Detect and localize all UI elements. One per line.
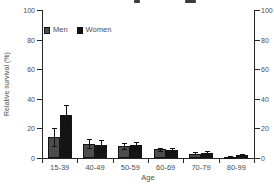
error-bar-cap xyxy=(170,148,175,149)
x-tick-label: 15-39 xyxy=(43,163,77,172)
error-bar-cap xyxy=(228,157,233,158)
survival-bar-chart: Relative survival (%) Men Women 02040608… xyxy=(0,0,274,191)
error-bar-cap xyxy=(240,156,245,157)
error-bar-cap xyxy=(99,150,104,151)
y-tick-label-right: 40 xyxy=(261,95,274,104)
legend-item-men: Men xyxy=(44,26,68,34)
y-tick-label-right: 0 xyxy=(261,154,274,163)
x-tick xyxy=(254,159,255,163)
men-swatch-icon xyxy=(44,27,50,34)
y-tick-right xyxy=(255,69,260,70)
y-tick-right xyxy=(255,40,260,41)
error-bar-cap xyxy=(87,148,92,149)
y-tick-label-left: 60 xyxy=(6,65,35,74)
error-bar-cap xyxy=(170,151,175,152)
right-y-axis-line xyxy=(254,10,255,159)
error-bar xyxy=(66,105,67,126)
error-bar-cap xyxy=(64,105,69,106)
y-tick-label-right: 60 xyxy=(261,65,274,74)
error-bar xyxy=(54,128,55,146)
x-axis-label: Age xyxy=(128,173,168,182)
y-tick-left xyxy=(37,10,42,11)
error-bar-cap xyxy=(52,128,57,129)
error-bar-cap xyxy=(52,146,57,147)
y-tick-right xyxy=(255,128,260,129)
error-bar-cap xyxy=(134,142,139,143)
error-bar xyxy=(101,140,102,150)
y-tick-label-left: 0 xyxy=(6,154,35,163)
y-tick-right xyxy=(255,10,260,11)
legend: Men Women xyxy=(44,26,111,34)
error-bar-cap xyxy=(158,148,163,149)
error-bar xyxy=(89,139,90,148)
error-bar-cap xyxy=(99,140,104,141)
left-y-axis-line xyxy=(42,10,43,159)
cropped-title-fragment xyxy=(134,0,140,3)
y-tick-left xyxy=(37,99,42,100)
error-bar-cap xyxy=(193,152,198,153)
error-bar-cap xyxy=(158,151,163,152)
legend-item-women: Women xyxy=(77,26,112,34)
y-tick-label-right: 100 xyxy=(261,6,274,15)
y-tick-right xyxy=(255,158,260,159)
error-bar-cap xyxy=(193,154,198,155)
y-tick-label-right: 80 xyxy=(261,36,274,45)
error-bar-cap xyxy=(134,148,139,149)
x-tick-label: 50-59 xyxy=(113,163,147,172)
error-bar-cap xyxy=(87,139,92,140)
women-swatch-icon xyxy=(77,27,83,34)
y-tick-left xyxy=(37,69,42,70)
y-tick-label-right: 20 xyxy=(261,124,274,133)
y-axis-label: Relative survival (%) xyxy=(1,10,11,158)
y-tick-label-left: 80 xyxy=(6,36,35,45)
error-bar-cap xyxy=(205,151,210,152)
x-tick-label: 60-69 xyxy=(149,163,183,172)
cropped-title-fragment xyxy=(185,0,196,3)
x-tick-label: 40-49 xyxy=(78,163,112,172)
error-bar-cap xyxy=(122,149,127,150)
legend-label-women: Women xyxy=(86,26,112,34)
x-tick-label: 70-79 xyxy=(184,163,218,172)
x-tick-label: 80-99 xyxy=(219,163,253,172)
y-tick-left xyxy=(37,128,42,129)
y-tick-label-left: 40 xyxy=(6,95,35,104)
y-tick-label-left: 100 xyxy=(6,6,35,15)
legend-label-men: Men xyxy=(53,26,68,34)
error-bar-cap xyxy=(205,154,210,155)
error-bar-cap xyxy=(64,125,69,126)
error-bar-cap xyxy=(122,143,127,144)
y-tick-right xyxy=(255,99,260,100)
y-tick-left xyxy=(37,40,42,41)
y-tick-label-left: 20 xyxy=(6,124,35,133)
